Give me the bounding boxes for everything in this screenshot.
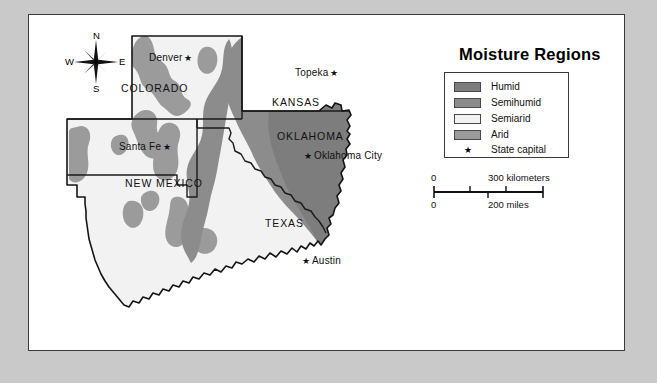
scale-km-label: 300 kilometers (488, 173, 550, 183)
capital-star-icon: ★ (302, 257, 310, 266)
legend-row-state-capital: ★State capital (454, 143, 546, 156)
compass-label-east: E (119, 57, 125, 67)
legend-swatch-humid (454, 82, 481, 92)
state-label-kansas: KANSAS (272, 97, 320, 108)
capital-label-oklahoma-city: Oklahoma City (314, 151, 382, 161)
legend-swatch-semihumid (454, 98, 481, 108)
map-page: N S W E COLORADOKANSASOKLAHOMANEW MEXICO… (0, 0, 657, 383)
capital-star-icon: ★ (163, 143, 171, 152)
state-label-new-mexico: NEW MEXICO (125, 178, 203, 189)
capital-topeka: Topeka★ (295, 68, 338, 78)
scale-bar-graphic (431, 184, 576, 200)
capital-star-icon: ★ (330, 69, 338, 78)
legend-star-icon: ★ (454, 145, 481, 155)
capital-star-icon: ★ (184, 54, 192, 63)
capital-santa-fe: Santa Fe★ (119, 142, 171, 152)
capital-label-topeka: Topeka (295, 68, 328, 78)
legend-label-humid: Humid (491, 82, 520, 92)
compass-label-west: W (65, 57, 74, 67)
state-label-oklahoma: OKLAHOMA (277, 131, 344, 142)
capital-label-austin: Austin (312, 256, 341, 266)
compass-rose: N S W E (65, 31, 127, 93)
scale-bar: 0 300 kilometers 0 200 miles (431, 173, 576, 211)
capital-oklahoma-city: ★Oklahoma City (304, 151, 382, 161)
legend-label-state-capital: State capital (491, 145, 546, 155)
legend-swatch-arid (454, 130, 481, 140)
compass-label-north: N (93, 31, 100, 41)
legend-label-semihumid: Semihumid (491, 98, 541, 108)
compass-label-south: S (93, 84, 99, 94)
map-panel: N S W E COLORADOKANSASOKLAHOMANEW MEXICO… (28, 14, 625, 351)
legend-label-semiarid: Semiarid (491, 114, 530, 124)
legend-row-semiarid: Semiarid (454, 112, 530, 125)
scale-km-zero: 0 (431, 173, 436, 183)
legend-row-humid: Humid (454, 80, 520, 93)
state-label-texas: TEXAS (265, 218, 304, 229)
legend-box: HumidSemihumidSemiaridArid★State capital (444, 72, 569, 158)
capital-label-santa-fe: Santa Fe (119, 142, 161, 152)
capital-label-denver: Denver (149, 53, 182, 63)
state-label-colorado: COLORADO (121, 83, 188, 94)
legend-label-arid: Arid (491, 130, 509, 140)
capital-denver: Denver★ (149, 53, 192, 63)
scale-mi-label: 200 miles (488, 200, 529, 210)
legend-row-arid: Arid (454, 128, 509, 141)
capital-austin: ★Austin (302, 256, 341, 266)
legend-title: Moisture Regions (459, 45, 601, 64)
legend-row-semihumid: Semihumid (454, 96, 541, 109)
scale-mi-zero: 0 (431, 200, 436, 210)
legend-swatch-semiarid (454, 114, 481, 124)
capital-star-icon: ★ (304, 152, 312, 161)
